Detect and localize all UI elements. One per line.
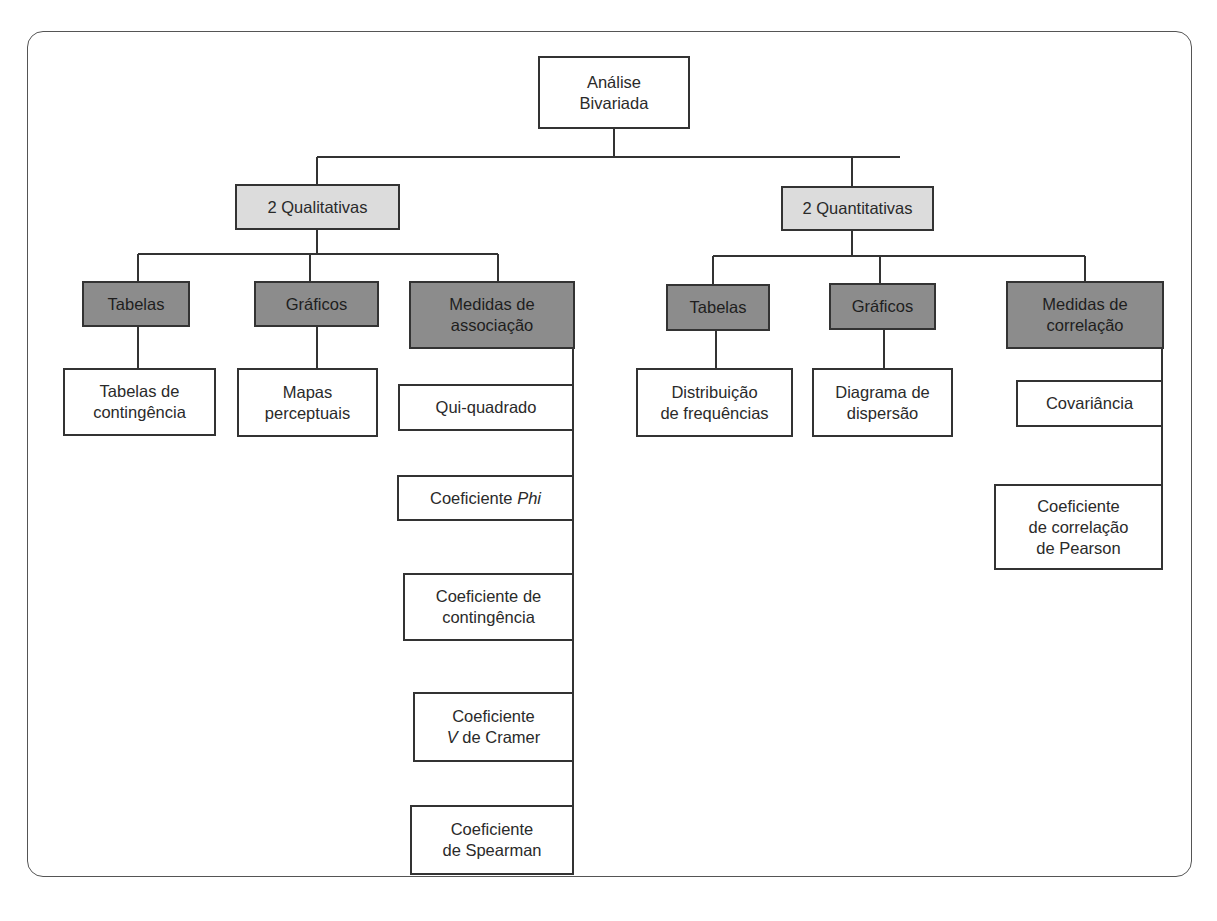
node-label: Qui-quadrado	[436, 397, 537, 418]
node-label: Mapas perceptuais	[265, 382, 350, 424]
node-covariancia: Covariância	[1016, 380, 1163, 427]
node-label: Medidas de associação	[449, 294, 534, 336]
node-label: Coeficiente de Spearman	[442, 819, 541, 861]
node-label: Tabelas de contingência	[93, 381, 186, 423]
node-label: Medidas de correlação	[1042, 294, 1127, 336]
node-label: Diagrama de dispersão	[835, 382, 929, 424]
node-coeficiente-spearman: Coeficiente de Spearman	[410, 805, 574, 875]
node-left-graficos: Gráficos	[254, 281, 379, 327]
node-tabelas-contingencia: Tabelas de contingência	[63, 368, 216, 436]
node-label: Coeficiente	[430, 489, 517, 507]
node-label: Covariância	[1046, 393, 1133, 414]
node-mapas-perceptuais: Mapas perceptuais	[237, 368, 378, 437]
node-coeficiente-v-cramer: Coeficiente V de Cramer	[413, 692, 574, 762]
node-distribuicao-frequencias: Distribuição de frequências	[636, 368, 793, 437]
node-label: Coeficiente de contingência	[436, 586, 542, 628]
node-root-label: Análise Bivariada	[580, 72, 649, 114]
node-label-italic: Phi	[517, 489, 541, 507]
node-root: Análise Bivariada	[538, 56, 690, 129]
node-2-qualitativas: 2 Qualitativas	[235, 184, 400, 230]
node-left-tabelas: Tabelas	[82, 281, 190, 327]
node-right-tabelas: Tabelas	[666, 284, 770, 331]
node-qui-quadrado: Qui-quadrado	[398, 384, 574, 431]
node-right-graficos: Gráficos	[829, 283, 936, 330]
node-label: Gráficos	[286, 294, 347, 315]
node-coeficiente-contingencia: Coeficiente de contingência	[403, 573, 574, 641]
node-label: Tabelas	[108, 294, 165, 315]
node-label: Coeficiente	[452, 707, 535, 725]
node-label: 2 Qualitativas	[268, 197, 368, 218]
node-coeficiente-phi: Coeficiente Phi	[397, 475, 574, 521]
node-left-medidas-associacao: Medidas de associação	[409, 281, 575, 349]
node-2-quantitativas: 2 Quantitativas	[781, 186, 934, 231]
node-diagrama-dispersao: Diagrama de dispersão	[812, 368, 953, 437]
node-right-medidas-correlacao: Medidas de correlação	[1006, 281, 1164, 349]
node-coeficiente-pearson: Coeficiente de correlação de Pearson	[994, 484, 1163, 570]
node-label-italic: V	[447, 728, 458, 746]
node-label: de Cramer	[458, 728, 541, 746]
node-label: Coeficiente de correlação de Pearson	[1029, 496, 1129, 559]
node-label: Distribuição de frequências	[660, 382, 768, 424]
node-label: Tabelas	[690, 297, 747, 318]
node-label: 2 Quantitativas	[802, 198, 912, 219]
diagram-frame	[27, 31, 1192, 877]
node-label: Gráficos	[852, 296, 913, 317]
